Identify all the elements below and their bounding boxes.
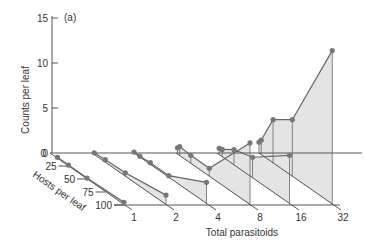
z-tick-label: 25	[45, 161, 57, 172]
data-marker	[290, 117, 295, 122]
x-category-label: 16	[295, 212, 307, 223]
x-category-label: 32	[337, 212, 349, 223]
data-marker	[259, 138, 264, 143]
data-marker	[92, 150, 97, 155]
x-category-label: 2	[173, 212, 179, 223]
data-marker	[66, 163, 71, 168]
data-marker	[121, 200, 126, 205]
x-category-label: 1	[131, 212, 137, 223]
data-marker	[220, 147, 225, 152]
data-marker	[287, 153, 292, 158]
data-marker	[177, 144, 182, 149]
data-marker	[188, 153, 193, 158]
z-tick-label: 50	[64, 174, 76, 185]
z-axis-title: Hosts per leaf	[31, 169, 88, 214]
data-marker	[55, 155, 60, 160]
data-marker	[270, 117, 275, 122]
series-fills	[57, 51, 332, 205]
x-category-label: 8	[257, 212, 263, 223]
z-tick-label: 100	[95, 200, 112, 211]
data-marker	[166, 173, 171, 178]
panel-label: (a)	[64, 12, 76, 23]
data-marker	[131, 150, 136, 155]
y-tick-label: 5	[42, 103, 48, 114]
z-tick-label: 75	[82, 187, 94, 198]
data-marker	[330, 48, 335, 53]
data-marker	[247, 140, 252, 145]
y-tick-label: 15	[37, 13, 49, 24]
data-marker	[137, 154, 142, 159]
series-baseline-1	[50, 153, 132, 210]
data-marker	[231, 147, 236, 152]
y-axis-title: Counts per leaf	[20, 66, 31, 134]
data-marker	[123, 170, 128, 175]
x-axis-title: Total parasitoids	[206, 227, 278, 238]
data-marker	[207, 166, 212, 171]
y-tick-label: 10	[37, 58, 49, 69]
data-marker	[250, 155, 255, 160]
z-tick-label-0: 0	[40, 148, 46, 159]
data-marker	[84, 176, 89, 181]
data-marker	[148, 160, 153, 165]
data-marker	[163, 193, 168, 198]
data-marker	[103, 157, 108, 162]
waterfall-chart: (a) Counts per leaf Total parasitoids Ho…	[0, 0, 365, 251]
x-category-label: 4	[215, 212, 221, 223]
data-marker	[204, 180, 209, 185]
